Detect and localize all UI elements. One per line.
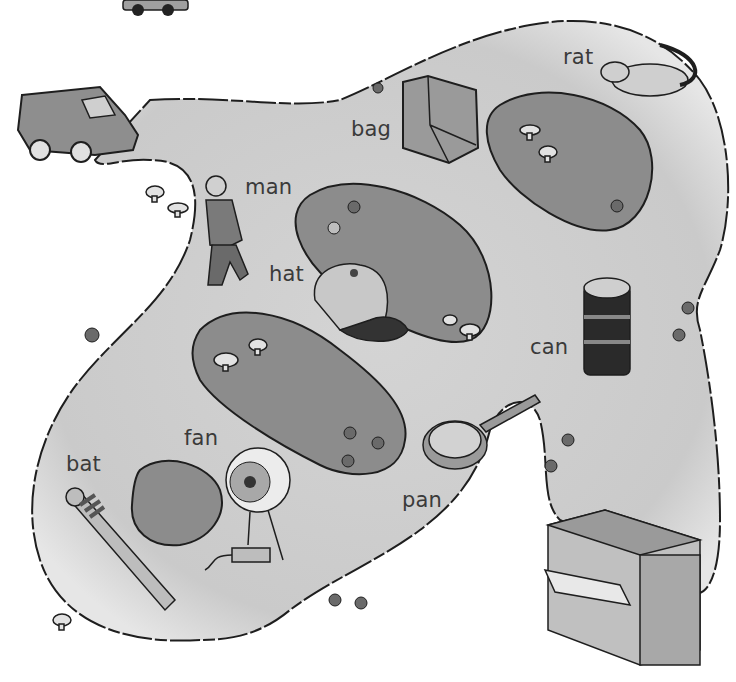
bag-icon — [403, 76, 478, 163]
label-fan: fan — [184, 428, 218, 449]
shop-icon — [545, 510, 700, 665]
label-bat: bat — [66, 454, 101, 475]
label-pan: pan — [402, 490, 442, 511]
picture-map: rat bag man hat can fan bat pan — [0, 0, 736, 682]
map-illustration — [0, 0, 736, 682]
label-man: man — [245, 177, 292, 198]
label-rat: rat — [563, 47, 593, 68]
van-icon — [18, 87, 138, 162]
label-bag: bag — [351, 119, 391, 140]
label-can: can — [530, 337, 568, 358]
can-icon — [584, 278, 630, 375]
label-hat: hat — [269, 264, 304, 285]
car-icon — [123, 0, 188, 16]
